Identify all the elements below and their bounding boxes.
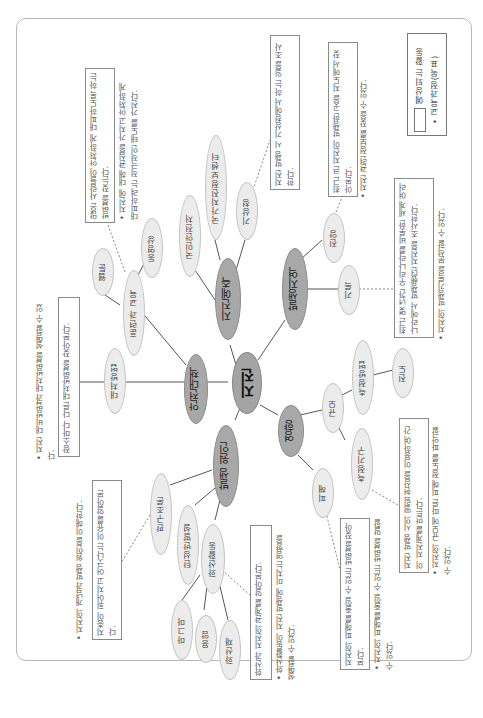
- box-text: 장소마다 다른 대처방법을 찾아본다.: [61, 301, 73, 453]
- activity-box-epicenter: 최근 큰 지진이 발생한 곳을 지도에서 찾아본다.: [328, 42, 358, 197]
- node-label: 용암: [200, 630, 212, 648]
- note-text: • 지진의 피해를 줄일 수 있는 방법을 말할 수 있다.: [372, 518, 396, 670]
- note-text: • 화산활동이 지진 발생에 미치는 영향을 설명할 수 있다.: [274, 525, 298, 680]
- activity-box-volcano: 화산과 지진의 관계를 알아본다.: [250, 525, 272, 680]
- node-label: 국민안전처: [184, 214, 196, 259]
- box-text: 지진 발생 시의 떨림 현상을 이용하여 간이 지진계를 만든다.: [402, 422, 426, 569]
- node-earthquake-center[interactable]: 국가지진정보센터: [205, 135, 227, 240]
- legend-swatch-icon: [414, 108, 426, 132]
- activity-box-method: 장소마다 다른 대처방법을 찾아본다.: [58, 297, 80, 457]
- goal-note-instrument: • 지진의 규모에 따른 피해 정도를 파악할 수 있다.: [430, 420, 458, 575]
- branch-cause[interactable]: 발생 원인: [213, 425, 239, 507]
- activity-box-weather: 지진 발생 시 기상청에서 하는 일을 조사한다.: [270, 35, 300, 190]
- node-webtoon[interactable]: 웹툰: [92, 248, 114, 296]
- node-instrument[interactable]: 측정기구: [351, 428, 373, 500]
- node-intensity[interactable]: 진도: [392, 348, 414, 398]
- node-label: 화산재: [224, 637, 236, 664]
- node-epicenter[interactable]: 진앙: [323, 213, 345, 263]
- box-text: 많은 사람들이 안전하게 대피하도록 하는 방법을 찾는다.: [88, 72, 112, 219]
- node-label: 판구조론: [155, 496, 167, 532]
- node-damage[interactable]: 피해: [312, 468, 334, 518]
- note-text: • 지진의 규모에 따른 피해 정도를 파악할 수 있다.: [430, 420, 454, 575]
- branch-safety[interactable]: 안전대책: [184, 354, 208, 424]
- center-node-earthquake[interactable]: 지진: [232, 352, 262, 414]
- note-text: • 지진에 대해 관심을 가지고 안전하게 대피하려는 적극적인 태도를 가진다…: [117, 80, 141, 220]
- goal-note-volcano: • 화산활동이 지진 발생에 미치는 영향을 설명할 수 있다.: [274, 525, 302, 680]
- note-text: • 지진의 발생기록을 분석할 수 있다.: [436, 180, 448, 340]
- node-lava[interactable]: 용암: [195, 615, 217, 663]
- branch-label: 발생 원인: [218, 442, 234, 490]
- note-text: • 지진의 개념과 발생 원인을 이해한다.: [74, 480, 86, 640]
- box-text: 최근 큰 지진이 발생한 곳을 지도에서 찾아본다.: [331, 46, 355, 193]
- node-label: 훈련과 교육: [128, 289, 140, 337]
- node-label: 기상청: [241, 198, 253, 225]
- note-text: • 지진 대비방법과 대처방법을 설명할 수 있다.: [34, 300, 58, 460]
- node-label: 대처방법: [109, 363, 121, 399]
- node-label: 기록: [343, 281, 355, 299]
- box-text: 지층이 휘어지고 어긋나는 이유를 알아본다.: [95, 484, 119, 636]
- node-label: 동영상: [146, 235, 158, 262]
- node-label: 피해: [317, 484, 329, 502]
- node-label: 웹툰: [97, 263, 109, 281]
- node-label: 규모: [327, 399, 339, 417]
- node-label: 화산활동: [207, 541, 219, 577]
- box-text: 지진 발생 시 기상청에서 하는 일을 조사한다.: [273, 39, 297, 186]
- activity-box-record: 최근 몇 년간 우리나라를 비롯한 세계 여러 나라에서 발생했던 지진을 조사…: [394, 178, 434, 338]
- node-public-safety[interactable]: 국민안전처: [179, 195, 201, 277]
- legend-box: • 교육과정(목표) 예상되는 활동: [407, 33, 447, 136]
- node-elastic-rebound[interactable]: 탄성반발설: [177, 505, 199, 585]
- activity-box-training: 많은 사람들이 안전하게 대피하도록 하는 방법을 찾는다.: [85, 68, 115, 223]
- node-label: 진도: [397, 364, 409, 382]
- branch-label: 안전대책: [188, 367, 204, 411]
- node-label: 측정기구: [356, 446, 368, 482]
- node-label: 진앙: [328, 229, 340, 247]
- branch-impact[interactable]: 영향: [278, 405, 304, 457]
- node-magnitude[interactable]: 규모: [322, 383, 344, 433]
- legend-curriculum: • 교육과정(목표): [429, 44, 441, 124]
- branch-prediction[interactable]: 지진예측: [215, 258, 241, 340]
- branch-label: 발생지역: [287, 267, 303, 311]
- activity-box-instrument: 지진 발생 시의 떨림 현상을 이용하여 간이 지진계를 만든다.: [399, 418, 429, 573]
- goal-note-method: • 지진 대비방법과 대처방법을 설명할 수 있다.: [34, 300, 56, 460]
- branch-region[interactable]: 발생지역: [282, 248, 308, 330]
- box-text: 최근 몇 년간 우리나라를 비롯한 세계 여러 나라에서 발생했던 지진을 조사…: [397, 182, 421, 334]
- branch-label: 영향: [283, 420, 299, 442]
- node-magma[interactable]: 마그마: [171, 600, 193, 660]
- node-plate-tectonics[interactable]: 판구조론: [150, 473, 172, 555]
- branch-label: 지진예측: [220, 277, 236, 321]
- box-text: 화산과 지진의 관계를 알아본다.: [253, 529, 265, 676]
- activity-box-plate: 지층이 휘어지고 어긋나는 이유를 알아본다.: [92, 480, 122, 640]
- goal-note-epicenter: • 지진 관련 정보를 찾을 수 있다.: [358, 48, 376, 198]
- goal-note-record: • 지진의 발생기록을 분석할 수 있다.: [436, 180, 454, 340]
- goal-note-damage: • 지진의 피해를 줄일 수 있는 방법을 말할 수 있다.: [372, 518, 400, 670]
- goal-note-plate: • 지진의 개념과 발생 원인을 이해한다.: [74, 480, 92, 640]
- activity-box-damage: 지진의 피해를 줄일 수 있는 방법을 찾아본다.: [340, 518, 370, 670]
- goal-note-training: • 지진에 대해 관심을 가지고 안전하게 대피하려는 적극적인 태도를 가진다…: [117, 80, 147, 220]
- node-label: 측정방법: [357, 360, 369, 396]
- node-record[interactable]: 기록: [338, 265, 360, 315]
- node-volcanic-ash[interactable]: 화산재: [219, 620, 241, 680]
- node-label: 마그마: [176, 617, 188, 644]
- node-label: 탄성반발설: [182, 523, 194, 568]
- node-response-method[interactable]: 대처방법: [104, 348, 126, 414]
- node-measure-method[interactable]: 측정방법: [352, 340, 374, 415]
- legend-expected: 예상되는 활동: [414, 44, 426, 104]
- node-video[interactable]: 동영상: [141, 218, 163, 278]
- node-volcanic-activity[interactable]: 화산활동: [201, 524, 225, 594]
- node-label: 국가지진정보센터: [210, 152, 222, 224]
- box-text: 지진의 피해를 줄일 수 있는 방법을 찾아본다.: [343, 522, 367, 666]
- node-weather-agency[interactable]: 기상청: [236, 182, 258, 240]
- note-text: • 지진 관련 정보를 찾을 수 있다.: [358, 48, 370, 198]
- center-label: 지진: [237, 368, 258, 398]
- node-training[interactable]: 훈련과 교육: [123, 270, 145, 356]
